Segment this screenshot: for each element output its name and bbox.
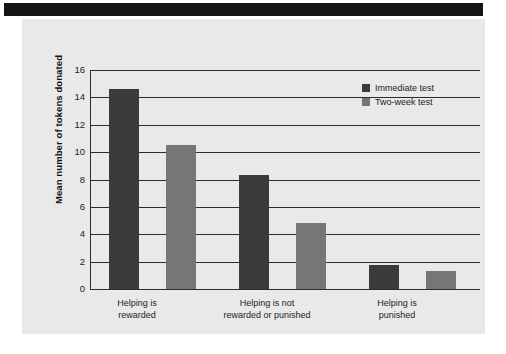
gridline <box>90 180 480 181</box>
bar <box>109 89 139 289</box>
gridline <box>90 234 480 235</box>
legend-label-immediate: Immediate test <box>375 83 434 93</box>
legend-item-twoweek: Two-week test <box>362 95 482 108</box>
bar <box>296 223 326 289</box>
gridline <box>90 70 480 71</box>
y-axis-tick-label: 12 <box>74 120 85 130</box>
legend-swatch-icon-immediate <box>362 84 370 92</box>
header-band <box>4 3 483 16</box>
gridline <box>90 262 480 263</box>
bar <box>239 175 269 289</box>
x-axis-category-label: Helping is not rewarded or punished <box>202 298 332 321</box>
y-axis-tick-label: 4 <box>80 229 85 239</box>
chart-legend: Immediate test Two-week test <box>362 81 482 109</box>
y-axis-tick-label: 0 <box>80 284 85 294</box>
x-axis-category-label: Helping is punished <box>332 298 462 321</box>
bar <box>426 271 456 289</box>
bar <box>369 265 399 289</box>
y-axis-tick-label: 8 <box>80 175 85 185</box>
legend-label-twoweek: Two-week test <box>375 97 433 107</box>
y-axis-tick-label: 6 <box>80 202 85 212</box>
x-axis-category-label: Helping is rewarded <box>72 298 202 321</box>
gridline <box>90 207 480 208</box>
legend-item-immediate: Immediate test <box>362 81 482 94</box>
gridline <box>90 152 480 153</box>
legend-swatch-icon-twoweek <box>362 98 370 106</box>
y-axis-tick-label: 10 <box>74 147 85 157</box>
bar <box>166 145 196 289</box>
y-axis-tick-label: 14 <box>74 92 85 102</box>
figure-container: Mean number of tokens donated 0246810121… <box>0 0 506 354</box>
y-axis-tick-labels: 0246810121416 <box>60 70 85 289</box>
gridline <box>90 125 480 126</box>
y-axis-tick-label: 2 <box>80 257 85 267</box>
gridline <box>90 289 480 290</box>
chart-panel: Mean number of tokens donated 0246810121… <box>22 19 485 334</box>
y-axis-tick-label: 16 <box>74 65 85 75</box>
